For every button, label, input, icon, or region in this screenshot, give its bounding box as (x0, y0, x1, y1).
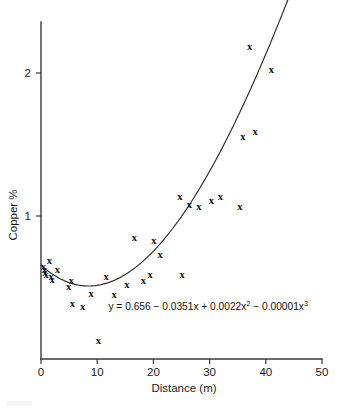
data-point-marker: x (47, 255, 53, 266)
data-point-marker: x (141, 275, 147, 286)
y-tick-label: 1 (25, 210, 31, 222)
data-point-marker: x (187, 199, 193, 210)
data-point-marker: x (88, 288, 94, 299)
figure-container: 01020304050 12 xxxxxxxxxxxxxxxxxxxxxxxxx… (0, 0, 340, 412)
scatter-plot: 01020304050 12 xxxxxxxxxxxxxxxxxxxxxxxxx… (0, 0, 340, 412)
data-point-marker: x (50, 274, 56, 285)
x-axis-ticks: 01020304050 (38, 359, 329, 378)
y-axis-ticks: 12 (25, 67, 41, 222)
x-tick-label: 50 (316, 366, 329, 378)
data-point-marker: x (147, 269, 153, 280)
data-point-marker: x (111, 289, 117, 300)
data-point-marker: x (237, 201, 243, 212)
data-point-marker: x (104, 271, 110, 282)
x-axis-title: Distance (m) (151, 382, 216, 394)
y-tick-label: 2 (25, 67, 31, 79)
data-point-marker: x (55, 264, 61, 275)
data-point-marker: x (247, 41, 253, 52)
data-point-marker: x (269, 64, 275, 75)
data-point-marker: x (218, 191, 224, 202)
data-point-marker: x (96, 335, 102, 346)
x-tick-label: 30 (203, 366, 216, 378)
data-point-marker: x (252, 126, 258, 137)
data-point-marker: x (177, 191, 183, 202)
data-point-marker: x (179, 269, 185, 280)
x-tick-label: 10 (91, 366, 104, 378)
cubic-fit-curve (41, 0, 289, 286)
y-axis-title: Copper % (7, 189, 19, 240)
data-point-marker: x (70, 298, 76, 309)
data-point-marker: x (132, 232, 138, 243)
data-point-marker: x (158, 249, 164, 260)
x-tick-label: 40 (259, 366, 272, 378)
data-point-marker: x (69, 275, 75, 286)
data-point-marker: x (80, 301, 86, 312)
data-point-marker: x (124, 279, 130, 290)
regression-equation-label: y = 0.656 − 0.0351x + 0.0022x2 − 0.00001… (108, 299, 307, 311)
x-tick-label: 20 (147, 366, 160, 378)
data-point-marker: x (196, 201, 202, 212)
data-point-marker: x (209, 195, 215, 206)
x-tick-label: 0 (38, 366, 44, 378)
data-point-marker: x (151, 235, 157, 246)
data-point-marker: x (240, 131, 246, 142)
scan-artifact (6, 401, 32, 406)
